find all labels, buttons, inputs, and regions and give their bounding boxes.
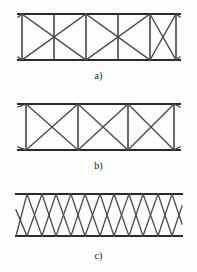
truss-b-svg: [0, 90, 197, 158]
caption-b: b): [0, 160, 197, 172]
truss-c-chords: [16, 194, 182, 236]
truss-diagram-c: c): [0, 180, 197, 272]
truss-a-chords: [18, 14, 180, 60]
caption-a: a): [0, 70, 197, 82]
truss-b-diagonals: [18, 104, 180, 150]
truss-diagram-b: b): [0, 90, 197, 182]
figure-sheet: a): [0, 0, 197, 272]
truss-a-diagonals: [18, 14, 180, 60]
truss-diagram-a: a): [0, 0, 197, 92]
truss-b-chords: [18, 104, 180, 150]
truss-a-verticals: [22, 14, 176, 60]
caption-c: c): [0, 250, 197, 262]
truss-a-svg: [0, 0, 197, 68]
truss-c-diagonals: [16, 194, 182, 236]
truss-c-svg: [0, 180, 197, 248]
